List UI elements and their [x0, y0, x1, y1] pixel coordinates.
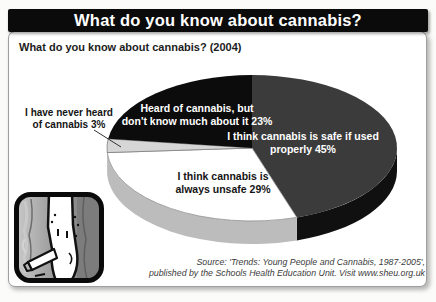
label-safe-if-used-properly: I think cannabis is safe if used properl… — [227, 130, 379, 155]
label-line: always unsafe 29% — [175, 182, 270, 195]
source-line1: Source: 'Trends: Young People and Cannab… — [149, 257, 425, 268]
label-line: I have never heard — [25, 107, 113, 119]
label-always-unsafe: I think cannabis is always unsafe 29% — [175, 170, 270, 195]
label-line: of cannabis 3% — [25, 119, 113, 131]
pie-slices — [107, 75, 397, 244]
smoker-illustration — [13, 191, 105, 284]
label-line: I think cannabis is safe if used — [227, 130, 379, 143]
cartoon-face — [48, 193, 77, 281]
label-line: I think cannabis is — [175, 170, 270, 183]
source-line2: published by the Schools Health Educatio… — [149, 268, 425, 279]
label-line: properly 45% — [227, 142, 379, 155]
source-credit: Source: 'Trends: Young People and Cannab… — [149, 257, 425, 279]
label-never-heard: I have never heard of cannabis 3% — [25, 107, 113, 131]
label-line: don't know much about it 23% — [122, 114, 273, 127]
label-line: Heard of cannabis, but — [122, 102, 273, 115]
label-heard-of-cannabis: Heard of cannabis, but don't know much a… — [122, 102, 273, 127]
